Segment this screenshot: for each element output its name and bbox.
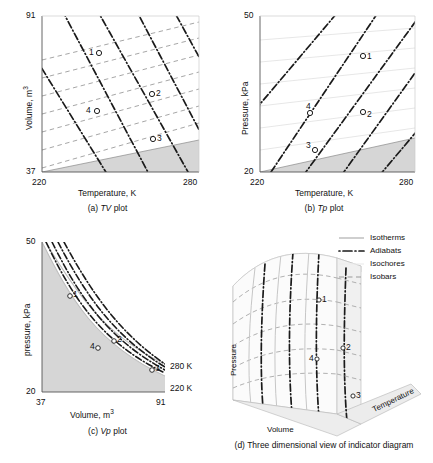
panel-a-y-axis-title: Volume, m3 (22, 86, 34, 130)
state-point-label-3: 3 (356, 390, 361, 400)
state-point-label-1: 1 (367, 51, 372, 61)
panel-c-caption-italic: Vp (100, 426, 110, 436)
panel-a-caption-prefix: (a) (88, 203, 98, 213)
panel-c-x-axis-title: Volume, m3 (70, 408, 114, 420)
legend-entry-isotherms: Isotherms (338, 231, 405, 244)
panel-b-caption-italic: Tp (317, 203, 327, 213)
panel-a-caption-suffix: plot (114, 203, 128, 213)
panel-a-caption: (a) TV plot (0, 203, 215, 213)
panel-d-volume-axis-title: Volume (267, 425, 294, 434)
state-point-label-4: 4 (306, 101, 311, 111)
panel-a-y-axis-label-text: Volume, m (24, 90, 34, 130)
legend-label-isotherms: Isotherms (370, 233, 405, 242)
panel-c-x-axis-exponent: 3 (110, 408, 114, 415)
legend-label-isobars: Isobars (370, 272, 396, 281)
state-point-label-4: 4 (90, 341, 95, 351)
panel-b-caption-suffix: plot (330, 203, 344, 213)
panel-c-ymax-tick: 50 (26, 236, 35, 246)
state-point-label-3: 3 (157, 133, 162, 143)
panel-b-x-axis-title: Temperature, K (295, 188, 353, 198)
panel-b-caption: (b) Tp plot (215, 203, 433, 213)
state-point-label-2: 2 (346, 342, 351, 352)
panel-d-caption: (d) Three dimensional view of indicator … (215, 440, 433, 450)
legend-sample-adiabats (338, 246, 365, 256)
state-point-label-3: 3 (155, 363, 160, 373)
panel-a-x-axis-title: Temperature, K (78, 188, 136, 198)
panel-c-ymin-tick: 20 (26, 386, 35, 396)
indicator-diagram-figure: 1 2 3 4 91 37 220 280 Volume, m3 Tempera… (0, 0, 433, 463)
legend-sample-isochores (338, 259, 365, 269)
legend-entry-isobars: Isobars (338, 270, 405, 283)
panel-b-xmin-tick: 220 (250, 177, 264, 187)
panel-a-y-axis-exponent: 3 (22, 86, 29, 90)
surface-front (233, 253, 337, 414)
panel-b-caption-prefix: (b) (305, 203, 315, 213)
panel-a-xmax-tick: 280 (183, 177, 197, 187)
panel-tp-plot: 1 2 3 4 50 20 220 280 Pressure, kPa Temp… (215, 0, 433, 225)
panel-vp-plot: 1 2 3 4 50 20 37 91 280 K 220 K pressure… (0, 228, 215, 463)
legend-entry-adiabats: Adiabats (338, 244, 405, 257)
panel-c-caption-suffix: plot (113, 426, 127, 436)
isotherm-edge-label-280k: 280 K (170, 361, 192, 371)
legend-sample-isobars (338, 272, 365, 282)
panel-b-xmax-tick: 280 (399, 177, 413, 187)
panel-a-caption-italic: TV (100, 203, 111, 213)
state-point-label-1: 1 (73, 289, 78, 299)
state-point-label-3: 3 (306, 140, 311, 150)
state-point-label-2: 2 (367, 109, 372, 119)
state-point-label-1: 1 (322, 294, 327, 304)
panel-c-xmin-tick: 37 (36, 397, 45, 407)
state-point-label-4: 4 (86, 105, 91, 115)
panel-c-x-axis-label-text: Volume, m (70, 410, 110, 420)
state-point-label-2: 2 (156, 88, 161, 98)
panel-a-ymax-tick: 91 (26, 10, 35, 20)
legend-sample-isotherms (338, 233, 365, 243)
legend: Isotherms Adiabats Isochores (338, 231, 405, 283)
panel-b-y-axis-title: Pressure, kPa (240, 82, 250, 135)
panel-c-caption-prefix: (c) (88, 426, 98, 436)
panel-b-ymin-tick: 20 (244, 166, 253, 176)
panel-c-caption: (c) Vp plot (0, 426, 215, 436)
panel-a-xmin-tick: 220 (32, 177, 46, 187)
state-point-label-4: 4 (309, 353, 314, 363)
legend-entry-isochores: Isochores (338, 257, 405, 270)
state-point-label-2: 2 (117, 334, 122, 344)
panel-d-pressure-axis-title: Pressure (229, 344, 238, 376)
state-point-label-1: 1 (89, 47, 94, 57)
legend-label-isochores: Isochores (370, 259, 405, 268)
legend-label-adiabats: Adiabats (370, 246, 401, 255)
panel-a-ymin-tick: 37 (26, 166, 35, 176)
panel-b-ymax-tick: 50 (244, 10, 253, 20)
isotherm-edge-label-220k: 220 K (170, 383, 192, 393)
panel-c-xmax-tick: 91 (156, 397, 165, 407)
panel-c-y-axis-title: pressure, kPa (22, 304, 32, 356)
panel-tv-plot: 1 2 3 4 91 37 220 280 Volume, m3 Tempera… (0, 0, 215, 225)
